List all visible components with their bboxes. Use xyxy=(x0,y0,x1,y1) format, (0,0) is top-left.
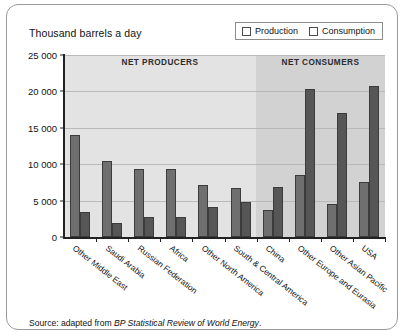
x-axis-tick-mark xyxy=(385,237,386,242)
source-prefix: Source: adapted from xyxy=(29,318,114,328)
y-axis-tick-label: 10 000 xyxy=(28,159,57,170)
bar-group xyxy=(160,55,192,237)
x-axis-tick-label: Africa xyxy=(168,243,191,264)
bar-production xyxy=(327,204,337,237)
bar-production xyxy=(359,182,369,237)
y-axis-tick-label: 0 xyxy=(52,232,57,243)
x-axis-tick-mark xyxy=(192,237,193,242)
bar-consumption xyxy=(305,89,315,237)
y-axis-tick: 20 000 xyxy=(7,86,64,97)
y-axis-tick: 5 000 xyxy=(7,195,64,206)
bar-consumption xyxy=(112,223,122,237)
legend-swatch-icon xyxy=(309,27,318,36)
bar-consumption xyxy=(369,86,379,237)
bar-group xyxy=(64,55,96,237)
y-axis-tick-mark xyxy=(60,200,64,201)
bar-group xyxy=(289,55,321,237)
bar-production xyxy=(231,188,241,238)
plot-area: NET PRODUCERS NET CONSUMERS xyxy=(64,55,385,237)
y-axis-tick-mark xyxy=(60,237,64,238)
bar-consumption xyxy=(208,207,218,237)
bar-group xyxy=(257,55,289,237)
bar-group xyxy=(353,55,385,237)
x-axis-tick-mark xyxy=(128,237,129,242)
y-axis-tick: 0 xyxy=(7,232,64,243)
chart-title: Thousand barrels a day xyxy=(29,27,142,39)
bar-consumption xyxy=(144,217,154,237)
bar-groups xyxy=(64,55,385,237)
legend-label-consumption: Consumption xyxy=(322,26,375,36)
y-axis-tick-mark xyxy=(60,127,64,128)
x-axis-tick-mark xyxy=(96,237,97,242)
x-axis-tick-mark xyxy=(353,237,354,242)
bar-group xyxy=(321,55,353,237)
bar-consumption xyxy=(176,217,186,237)
bar-production xyxy=(102,161,112,237)
source-note: Source: adapted from BP Statistical Revi… xyxy=(29,318,261,328)
bar-group xyxy=(96,55,128,237)
bar-group xyxy=(128,55,160,237)
x-axis-tick-label: USA xyxy=(360,243,380,261)
source-suffix: . xyxy=(259,318,261,328)
source-title: BP Statistical Review of World Energy xyxy=(114,318,259,328)
x-axis-tick-mark xyxy=(257,237,258,242)
y-axis-tick-label: 15 000 xyxy=(28,122,57,133)
legend-swatch-icon xyxy=(242,27,251,36)
legend-label-production: Production xyxy=(255,26,298,36)
bar-consumption xyxy=(80,212,90,237)
chart-figure: Thousand barrels a day Production Consum… xyxy=(6,4,398,330)
y-axis-tick-label: 20 000 xyxy=(28,86,57,97)
bar-consumption xyxy=(337,113,347,237)
y-axis-tick-mark xyxy=(60,164,64,165)
bar-consumption xyxy=(241,202,251,237)
y-axis-tick-mark xyxy=(60,91,64,92)
bar-group xyxy=(192,55,224,237)
y-axis-tick-label: 5 000 xyxy=(33,195,57,206)
bar-consumption xyxy=(273,187,283,237)
x-axis-tick-mark xyxy=(289,237,290,242)
y-axis-line xyxy=(63,54,65,238)
x-axis-labels: Other Middle EastSaudi ArabiaRussian Fed… xyxy=(64,243,385,313)
bar-production xyxy=(198,185,208,237)
bar-production xyxy=(70,135,80,237)
legend-item-production: Production xyxy=(242,26,298,36)
x-axis-tick-label: Other Middle East xyxy=(71,243,130,292)
y-axis-tick-mark xyxy=(60,55,64,56)
chart-legend: Production Consumption xyxy=(235,22,383,40)
x-axis-tick-label: China xyxy=(264,243,287,264)
y-axis-tick: 25 000 xyxy=(7,50,64,61)
y-axis-tick: 15 000 xyxy=(7,122,64,133)
legend-item-consumption: Consumption xyxy=(309,26,375,36)
bar-production xyxy=(134,169,144,237)
x-axis-tick-mark xyxy=(225,237,226,242)
bar-group xyxy=(224,55,256,237)
bar-production xyxy=(263,210,273,237)
y-axis-tick-label: 25 000 xyxy=(28,50,57,61)
x-axis-tick-mark xyxy=(160,237,161,242)
y-axis-tick: 10 000 xyxy=(7,159,64,170)
bar-production xyxy=(295,175,305,237)
x-axis-tick-mark xyxy=(321,237,322,242)
bar-production xyxy=(166,169,176,237)
